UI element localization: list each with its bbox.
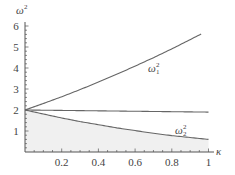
x-tick-label: 0.4 <box>92 156 106 168</box>
omega1-label-sub: 1 <box>156 68 160 76</box>
y-tick-label: 2 <box>13 104 19 116</box>
omega2-label-sub: 2 <box>183 130 187 138</box>
y-tick-label: 5 <box>13 41 19 53</box>
x-axis-label: κ <box>216 145 222 157</box>
y-tick-label: 4 <box>13 62 19 74</box>
x-tick-label: 0.8 <box>165 156 179 168</box>
x-tick-label: 0.2 <box>55 156 69 168</box>
chart: 0.20.40.60.81123456ω2κω21ω22 <box>0 0 235 175</box>
x-tick-label: 0.6 <box>128 156 142 168</box>
omega2-label: ω <box>175 124 183 136</box>
curve-2 <box>25 110 209 112</box>
y-axis-label: ω <box>16 4 24 16</box>
y-axis-label-sup: 2 <box>24 3 28 11</box>
x-tick-label: 1 <box>206 156 212 168</box>
curve-1 <box>25 34 201 110</box>
y-tick-label: 3 <box>13 83 19 95</box>
y-tick-label: 6 <box>13 20 19 32</box>
y-tick-label: 1 <box>13 125 19 137</box>
omega1-label: ω <box>148 62 156 74</box>
